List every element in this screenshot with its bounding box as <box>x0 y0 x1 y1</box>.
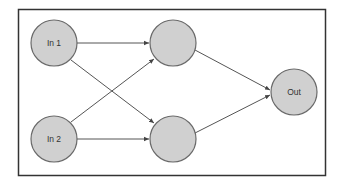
node-in1: In 1 <box>31 20 77 66</box>
node-hidden-1 <box>150 20 196 66</box>
network-diagram: In 1 In 2 Out <box>0 0 339 186</box>
node-out: Out <box>271 69 317 115</box>
node-label-in1: In 1 <box>47 38 61 48</box>
node-in2: In 2 <box>31 116 77 162</box>
node-label-out: Out <box>287 87 301 97</box>
node-label-in2: In 2 <box>47 134 61 144</box>
node-hidden-2 <box>150 116 196 162</box>
